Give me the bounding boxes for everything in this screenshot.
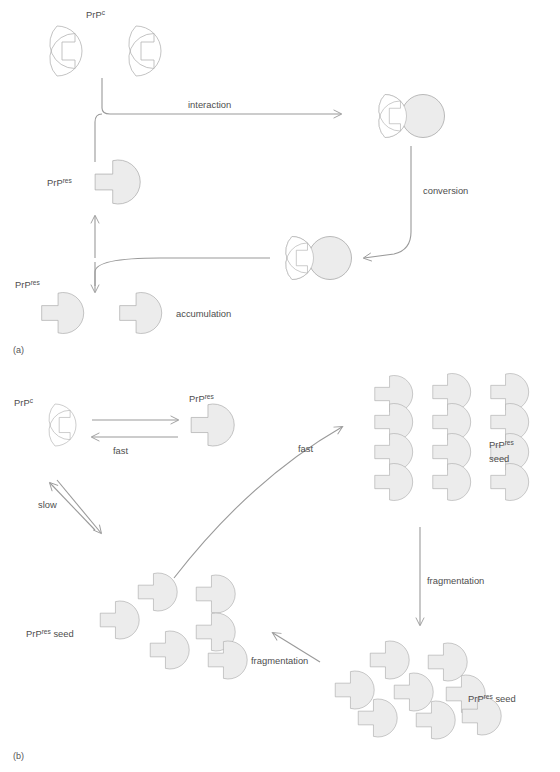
bottom-cluster-seed-label: PrPres seed: [468, 693, 516, 704]
panel-b-marker: (b): [13, 751, 24, 761]
diagram-canvas: PrPc interaction conversion: [0, 0, 560, 772]
label-slow: slow: [38, 499, 57, 510]
left-cluster-seed-label: PrPres seed: [26, 628, 74, 639]
ordered-seed-label-line2: seed: [489, 453, 509, 464]
label-interaction: interaction: [188, 99, 231, 110]
heterodimer-prp-res: [402, 95, 445, 138]
label-fragmentation-diagonal: fragmentation: [251, 655, 308, 666]
prion-conversion-figure: PrPc interaction conversion: [0, 0, 560, 772]
ordered-seed-lattice: [375, 374, 529, 501]
heterodimer-complex: [379, 95, 445, 138]
label-conversion: conversion: [423, 185, 468, 196]
label-accumulation: accumulation: [176, 308, 231, 319]
homodimer-right: [309, 237, 352, 280]
label-fast-equilibrium: fast: [113, 445, 129, 456]
homodimer-complex: [286, 237, 352, 280]
label-fragmentation-vertical: fragmentation: [427, 575, 484, 586]
panel-a-marker: (a): [13, 345, 24, 355]
label-fast-seeding: fast: [298, 443, 314, 454]
